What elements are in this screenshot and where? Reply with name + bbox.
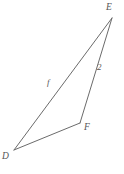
side-label-ef: 2: [97, 63, 102, 72]
vertex-label-f: F: [84, 123, 90, 133]
side-ef-line: [80, 18, 112, 123]
geometry-figure: E D F f 2: [0, 0, 124, 174]
side-label-de: f: [47, 78, 50, 87]
vertex-label-e: E: [106, 3, 112, 13]
vertex-label-d: D: [2, 152, 9, 162]
triangle-def-drawing: [0, 0, 124, 174]
